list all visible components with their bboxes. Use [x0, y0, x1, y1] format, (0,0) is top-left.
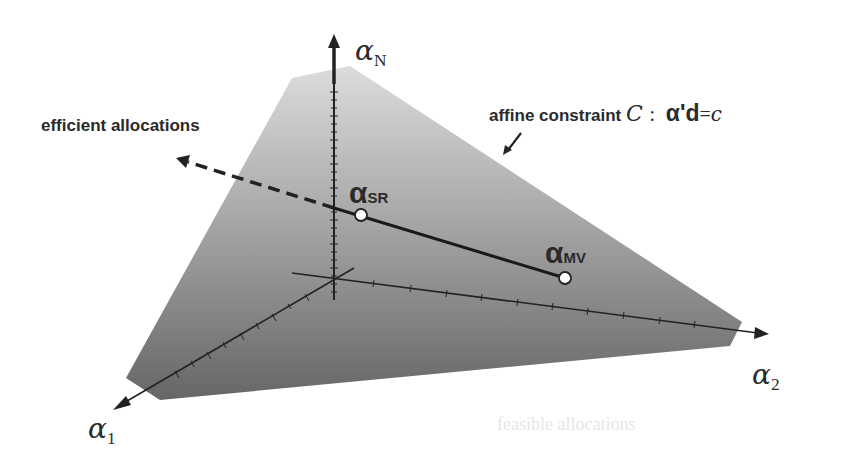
alpha-symbol: α	[88, 412, 107, 445]
sr-subscript: SR	[367, 189, 388, 206]
point-alpha-mv	[559, 272, 571, 284]
constraint-colon: :	[650, 103, 656, 125]
affine-constraint-label: affine constraint C : α'd=c	[489, 100, 722, 127]
point-alpha-sr	[355, 209, 367, 221]
alpha-n-subscript: N	[374, 51, 387, 70]
affine-constraint-diagram	[0, 0, 849, 471]
constraint-pointer-arrow	[503, 133, 521, 155]
alpha-1-subscript: 1	[107, 429, 116, 448]
efficient-allocations-label: efficient allocations	[41, 116, 200, 136]
point-label-alpha-sr: αSR	[349, 176, 388, 210]
bleed-through-text: feasible allocations	[497, 414, 635, 435]
alpha-symbol: α	[355, 34, 374, 67]
constraint-lhs: α'd	[666, 100, 700, 126]
axis-label-alpha-n: αN	[355, 34, 386, 71]
axis-label-alpha-1: α1	[88, 412, 116, 449]
alpha-symbol: α	[545, 236, 563, 269]
alpha-symbol: α	[752, 358, 771, 391]
constraint-symbol: C	[626, 101, 643, 126]
affine-constraint-text: affine constraint	[489, 106, 621, 125]
constraint-equals: =	[700, 103, 711, 125]
axis-label-alpha-2: α2	[752, 358, 780, 395]
alpha-symbol: α	[349, 176, 367, 209]
constraint-rhs: c	[711, 102, 722, 126]
point-label-alpha-mv: αMV	[545, 236, 586, 270]
alpha-2-subscript: 2	[771, 375, 780, 394]
mv-subscript: MV	[563, 249, 586, 266]
